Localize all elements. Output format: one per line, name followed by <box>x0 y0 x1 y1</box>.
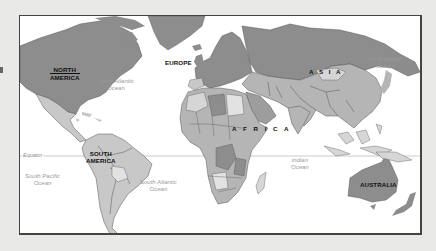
label-equator: Equator <box>22 152 43 158</box>
label-south-atlantic-ocean: South AtlanticOcean <box>140 179 177 193</box>
label-australia: AUSTRALIA <box>360 181 397 188</box>
new-zealand-shape <box>392 192 416 216</box>
world-map-frame: NORTH AMERICA EUROPE A S I A A F R I C A… <box>19 15 422 235</box>
label-africa: A F R I C A <box>232 125 291 132</box>
world-map-svg <box>20 16 422 235</box>
new-guinea-shape <box>376 152 412 162</box>
label-north-atlantic-ocean: North AtlanticOcean <box>98 78 134 92</box>
southeast-asia-islands <box>324 124 392 156</box>
australia-shape <box>348 154 398 202</box>
label-south-america: SOUTH AMERICA <box>86 150 116 164</box>
europe-shape <box>195 32 252 88</box>
japan-shape <box>380 70 392 94</box>
label-north-america: NORTH AMERICA <box>50 66 80 81</box>
label-south-pacific-ocean: South PacificOcean <box>25 173 60 187</box>
label-north-pacific-ocean: North PacificOcean <box>368 56 402 70</box>
label-asia: A S I A <box>309 68 342 75</box>
label-indian-ocean: IndianOcean <box>291 157 309 171</box>
madagascar-shape <box>256 172 266 194</box>
cropped-text-fragment <box>0 67 3 73</box>
label-europe: EUROPE <box>165 59 192 66</box>
